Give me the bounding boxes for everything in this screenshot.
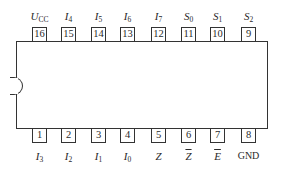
pin-13: 13 [120, 27, 135, 41]
pin-12-label: I7 [144, 10, 174, 26]
pin-7: 7 [210, 129, 225, 143]
pin-5-label: Z [144, 150, 174, 162]
pin-3-label: I1 [84, 150, 114, 166]
pin-16-label: UCC [25, 10, 55, 26]
pin-11-label: S0 [174, 10, 204, 26]
pin-4: 4 [120, 129, 135, 143]
pin-14: 14 [91, 27, 106, 41]
pin-3: 3 [91, 129, 106, 143]
pin-6: 6 [181, 129, 196, 143]
pin-6-label: Z [174, 150, 204, 162]
pin-5: 5 [151, 129, 166, 143]
pin-15-label: I4 [54, 10, 84, 26]
ic-body [16, 41, 268, 129]
pin-2-label: I2 [54, 150, 84, 166]
pin-1: 1 [32, 129, 47, 143]
pin-7-label: E [203, 150, 233, 162]
pin-10: 10 [210, 27, 225, 41]
pin-1-label: I3 [25, 150, 55, 166]
pin-9-label: S2 [234, 10, 264, 26]
pin-9: 9 [241, 27, 256, 41]
pin-14-label: I5 [84, 10, 114, 26]
pin-12: 12 [151, 27, 166, 41]
pin-11: 11 [181, 27, 196, 41]
pin-8-label: GND [234, 150, 264, 162]
pin-15: 15 [61, 27, 76, 41]
pin-13-label: I6 [113, 10, 143, 26]
pin-8: 8 [241, 129, 256, 143]
pin-16: 16 [32, 27, 47, 41]
pin-10-label: S1 [203, 10, 233, 26]
pin-4-label: I0 [113, 150, 143, 166]
pin-2: 2 [61, 129, 76, 143]
